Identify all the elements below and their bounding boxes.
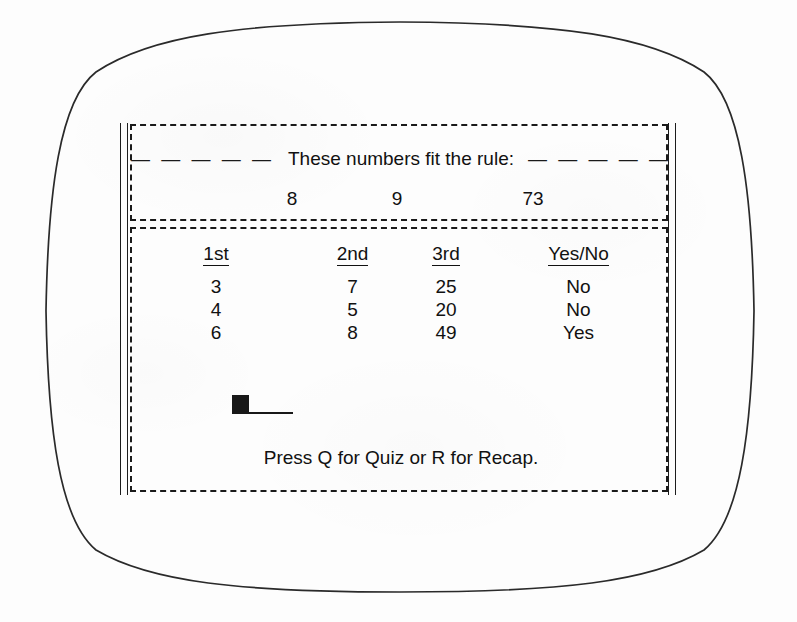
title-dashes-right: — — — — —	[528, 149, 671, 168]
table-row: 6 8 49 Yes	[132, 321, 670, 344]
key-prompt: Press Q for Quiz or R for Recap.	[132, 447, 670, 469]
column-header-yesno-label: Yes/No	[548, 244, 609, 266]
cell-first: 6	[132, 321, 300, 344]
crt-screenshot: — — — — — These numbers fit the rule: — …	[0, 0, 797, 622]
column-header-third: 3rd	[405, 243, 487, 275]
cell-yesno: No	[487, 275, 670, 298]
cell-third: 20	[405, 298, 487, 321]
cell-second: 8	[300, 321, 405, 344]
rule-number-1: 8	[287, 188, 298, 210]
cell-second: 7	[300, 275, 405, 298]
rule-header-panel: — — — — — These numbers fit the rule: — …	[130, 124, 668, 221]
guesses-table: 1st 2nd 3rd Yes/No	[132, 243, 670, 344]
cell-first: 3	[132, 275, 300, 298]
cell-yesno: No	[487, 298, 670, 321]
cell-yesno: Yes	[487, 321, 670, 344]
crt-screen-area: — — — — — These numbers fit the rule: — …	[118, 120, 680, 498]
rule-number-3: 73	[522, 188, 543, 210]
rule-title-row: — — — — — These numbers fit the rule: — …	[132, 148, 670, 170]
table-header-row: 1st 2nd 3rd Yes/No	[132, 243, 670, 275]
screen-rail-left	[120, 123, 128, 495]
guess-input[interactable]	[232, 395, 293, 414]
rule-numbers-row: 8 9 73	[132, 188, 670, 214]
column-header-first-label: 1st	[203, 244, 228, 266]
table-row: 4 5 20 No	[132, 298, 670, 321]
title-dashes-left: — — — — —	[131, 149, 274, 168]
rule-title: These numbers fit the rule:	[288, 148, 514, 170]
cell-first: 4	[132, 298, 300, 321]
rule-number-2: 9	[392, 188, 403, 210]
column-header-second: 2nd	[300, 243, 405, 275]
column-header-first: 1st	[132, 243, 300, 275]
column-header-third-label: 3rd	[432, 244, 459, 266]
cell-third: 49	[405, 321, 487, 344]
cell-second: 5	[300, 298, 405, 321]
column-header-yesno: Yes/No	[487, 243, 670, 275]
guesses-body-panel: 1st 2nd 3rd Yes/No	[130, 227, 668, 492]
table-row: 3 7 25 No	[132, 275, 670, 298]
cell-third: 25	[405, 275, 487, 298]
column-header-second-label: 2nd	[337, 244, 369, 266]
input-underline	[249, 412, 293, 414]
block-cursor-icon	[232, 395, 249, 414]
screen-rail-right	[668, 123, 676, 495]
